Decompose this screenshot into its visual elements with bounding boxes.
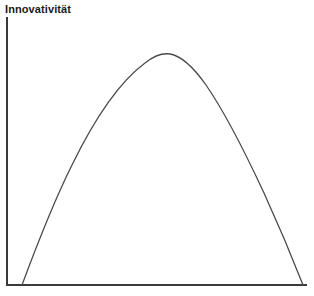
plot-area — [0, 0, 314, 296]
innovativitaet-curve — [22, 54, 303, 285]
chart-figure: Innovativität — [0, 0, 314, 296]
